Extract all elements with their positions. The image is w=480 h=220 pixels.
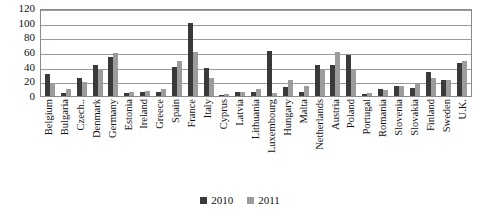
bar-group <box>201 10 217 96</box>
x-axis-label: Spain <box>171 99 182 123</box>
legend-swatch-icon <box>200 197 207 204</box>
bar-group <box>359 10 375 96</box>
x-axis-label: Malta <box>298 99 309 124</box>
bar-group <box>42 10 58 96</box>
x-axis-label: U.K. <box>458 99 469 119</box>
bar-2011 <box>113 53 118 96</box>
x-axis-label-cell: Luxembourg <box>264 99 280 173</box>
x-axis-label: Netherlands <box>314 99 325 150</box>
x-axis-label: Austria <box>330 99 341 130</box>
x-axis-label: Luxembourg <box>267 99 278 153</box>
y-axis-tick: 0 <box>30 91 36 102</box>
legend-swatch-icon <box>247 197 254 204</box>
legend-label: 2010 <box>211 195 233 206</box>
bar-group <box>391 10 407 96</box>
x-axis-label: Czech.. <box>76 99 87 131</box>
bar-2011 <box>193 52 198 96</box>
bar-group <box>375 10 391 96</box>
bar-2011 <box>431 78 436 96</box>
bar-group <box>438 10 454 96</box>
bar-2011 <box>50 83 55 96</box>
x-axis-label: Poland <box>346 99 357 128</box>
x-axis-label-cell: Denmark <box>89 99 105 173</box>
chart-root: 120100806040200 BelgiumBulgariaCzech..De… <box>0 0 480 220</box>
legend-item[interactable]: 2011 <box>247 195 280 206</box>
x-axis-label: Ireland <box>139 99 150 129</box>
legend-label: 2011 <box>258 195 280 206</box>
bar-2011 <box>161 89 166 96</box>
x-axis-label-cell: Portugal <box>359 99 375 173</box>
bar-group <box>248 10 264 96</box>
bar-group <box>169 10 185 96</box>
bar-group <box>74 10 90 96</box>
x-axis-label: Romania <box>378 99 389 137</box>
bar-2011 <box>82 82 87 96</box>
y-axis: 120100806040200 <box>0 0 38 106</box>
x-axis-label-cell: U.K. <box>455 99 471 173</box>
y-axis-tick: 20 <box>24 76 35 87</box>
bar-2011 <box>399 86 404 96</box>
bar-2011 <box>145 91 150 96</box>
bar-2011 <box>209 78 214 96</box>
bar-2011 <box>367 93 372 96</box>
bar-group <box>105 10 121 96</box>
x-axis-label: Hungary <box>283 99 294 136</box>
x-axis-labels: BelgiumBulgariaCzech..DenmarkGermanyEsto… <box>40 99 472 173</box>
bar-group <box>185 10 201 96</box>
bar-group <box>343 10 359 96</box>
x-axis-label-cell: Bulgaria <box>57 99 73 173</box>
y-axis-tick: 80 <box>24 32 35 43</box>
x-axis-label: Estonia <box>123 99 134 131</box>
x-axis-label-cell: Lithuania <box>248 99 264 173</box>
bar-2011 <box>98 70 103 96</box>
x-axis-label-cell: Finland <box>423 99 439 173</box>
bar-2011 <box>272 93 277 96</box>
x-axis-label-cell: Czech.. <box>73 99 89 173</box>
x-axis-label: Denmark <box>91 99 102 138</box>
y-axis-tick: 120 <box>19 3 36 14</box>
chart-legend: 20102011 <box>0 195 480 206</box>
y-axis-tick: 40 <box>24 62 35 73</box>
x-axis-label-cell: Spain <box>168 99 184 173</box>
x-axis-label: Sweden <box>442 99 453 132</box>
bar-group <box>407 10 423 96</box>
x-axis-label-cell: Italy <box>200 99 216 173</box>
bar-2011 <box>415 84 420 96</box>
bar-2011 <box>224 94 229 96</box>
x-axis-label: Slovakia <box>410 99 421 136</box>
x-axis-label-cell: Ireland <box>137 99 153 173</box>
x-axis-label: France <box>187 99 198 128</box>
x-axis-label-cell: Romania <box>375 99 391 173</box>
x-axis-label-cell: Sweden <box>439 99 455 173</box>
x-axis-label: Latvia <box>235 99 246 126</box>
bar-group <box>423 10 439 96</box>
x-axis-label: Greece <box>155 99 166 129</box>
bar-group <box>296 10 312 96</box>
x-axis-label: Cyprus <box>219 99 230 129</box>
bar-2011 <box>320 70 325 96</box>
x-axis-label-cell: Slovakia <box>407 99 423 173</box>
x-axis-label-cell: Greece <box>152 99 168 173</box>
x-axis-label-cell: Belgium <box>41 99 57 173</box>
bar-group <box>90 10 106 96</box>
x-axis-label: Belgium <box>44 99 55 135</box>
x-axis-label: Bulgaria <box>60 99 71 135</box>
x-axis-label-cell: Germany <box>105 99 121 173</box>
x-axis-label: Germany <box>107 99 118 138</box>
bar-2011 <box>351 70 356 96</box>
bar-2011 <box>462 61 467 96</box>
x-axis-label-cell: Hungary <box>280 99 296 173</box>
y-axis-tick: 60 <box>24 47 35 58</box>
bar-group <box>280 10 296 96</box>
legend-item[interactable]: 2010 <box>200 195 233 206</box>
bar-2011 <box>129 92 134 96</box>
x-axis-label-cell: Austria <box>328 99 344 173</box>
x-axis-label: Italy <box>203 99 214 118</box>
bar-2011 <box>446 80 451 96</box>
x-axis-label-cell: Cyprus <box>216 99 232 173</box>
bar-groups <box>41 10 471 96</box>
bar-group <box>137 10 153 96</box>
x-axis-label: Finland <box>426 99 437 131</box>
bar-2011 <box>240 92 245 96</box>
plot-area <box>40 9 472 97</box>
